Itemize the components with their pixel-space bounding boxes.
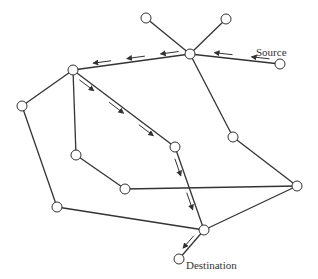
edge-A-C bbox=[146, 18, 190, 54]
edge-L-T bbox=[179, 230, 204, 259]
route-arrow-icon bbox=[79, 80, 93, 91]
edge-C-F bbox=[190, 54, 233, 137]
edge-D-H bbox=[73, 70, 175, 147]
edge-G-I bbox=[76, 155, 125, 189]
node-C bbox=[185, 49, 195, 59]
node-B bbox=[221, 14, 231, 24]
node-G bbox=[71, 150, 81, 160]
edge-D-E bbox=[22, 70, 73, 106]
edge-E-K bbox=[22, 106, 57, 207]
node-T bbox=[174, 254, 184, 264]
source-label: Source bbox=[256, 46, 287, 58]
node-D bbox=[68, 65, 78, 75]
edge-I-J bbox=[125, 186, 297, 189]
network-graph bbox=[0, 0, 318, 279]
destination-label: Destination bbox=[186, 259, 237, 271]
route-arrow-icon bbox=[109, 102, 123, 113]
node-F bbox=[228, 132, 238, 142]
node-S bbox=[275, 59, 285, 69]
edge-B-C bbox=[190, 19, 226, 54]
edge-C-D bbox=[73, 54, 190, 70]
edge-F-J bbox=[233, 137, 297, 186]
route-arrow-icon bbox=[93, 61, 111, 63]
edge-J-L bbox=[204, 186, 297, 230]
node-K bbox=[52, 202, 62, 212]
node-H bbox=[170, 142, 180, 152]
node-L bbox=[199, 225, 209, 235]
route-arrow-icon bbox=[183, 236, 194, 248]
route-arrow-icon bbox=[139, 125, 153, 136]
edge-D-G bbox=[73, 70, 76, 155]
node-A bbox=[141, 13, 151, 23]
route-arrow-icon bbox=[161, 52, 179, 54]
edge-K-L bbox=[57, 207, 204, 230]
node-I bbox=[120, 184, 130, 194]
node-J bbox=[292, 181, 302, 191]
route-arrow-icon bbox=[127, 56, 145, 58]
route-arrow-icon bbox=[215, 53, 233, 55]
node-E bbox=[17, 101, 27, 111]
